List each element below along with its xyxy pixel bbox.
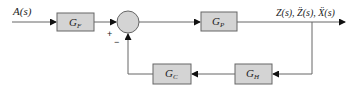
block-diagram: A(s) GF + − GP Z(s), Z̈(s), Ẍ(s) GH GC: [0, 0, 359, 90]
gc-to-sum-wire: [128, 34, 153, 74]
block-gf: GF: [57, 13, 94, 31]
plus-sign: +: [107, 29, 112, 39]
input-label: A(s): [12, 5, 32, 18]
block-gc: GC: [153, 64, 191, 84]
feedback-wire-to-gh: [273, 22, 312, 74]
minus-sign: −: [114, 37, 119, 47]
summing-junction: [117, 11, 139, 33]
block-gh: GH: [235, 64, 272, 84]
output-label: Z(s), Z̈(s), Ẍ(s): [276, 7, 336, 19]
block-gp: GP: [201, 12, 237, 31]
